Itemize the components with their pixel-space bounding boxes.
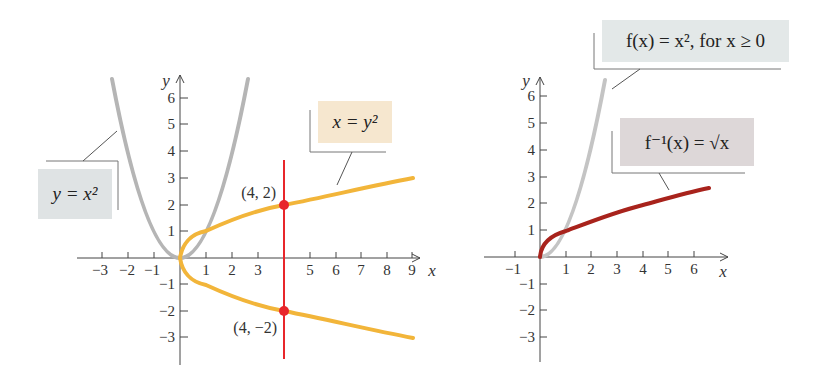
x-axis-label: x xyxy=(427,261,436,280)
right-graph: −1 1 2 3 4 5 6 x 6 5 4 3 2 1 −1 −2 −3 y xyxy=(484,33,781,362)
y-tick-label: −2 xyxy=(519,302,535,318)
callout-finv: f⁻¹(x) = √x xyxy=(620,118,754,166)
x-tick-label: 7 xyxy=(357,262,365,278)
callout-sideways: x = y² xyxy=(318,101,392,143)
x-tick-label: 3 xyxy=(613,261,621,277)
point-lower-label: (4, −2) xyxy=(233,319,277,337)
callout-sideways-text: x = y² xyxy=(333,111,378,133)
callout-parabola-text: y = x² xyxy=(53,183,98,205)
y-tick-label: 4 xyxy=(168,143,176,159)
y-tick-label: 6 xyxy=(528,88,536,104)
y-tick-label: −1 xyxy=(159,276,175,292)
sideways-parabola-upper xyxy=(180,178,413,258)
x-tick-label: −1 xyxy=(505,261,521,277)
y-tick-label: −2 xyxy=(159,303,175,319)
x-axis-label: x xyxy=(718,262,727,281)
x-tick-label: 3 xyxy=(254,262,262,278)
callout-f: f(x) = x², for x ≥ 0 xyxy=(602,20,789,62)
y-axis-label: y xyxy=(160,71,170,90)
y-tick-label: −1 xyxy=(519,276,535,292)
y-tick-label: 2 xyxy=(528,195,536,211)
y-tick-label: 4 xyxy=(528,142,536,158)
x-tick-label: −1 xyxy=(144,262,160,278)
x-tick-label: 6 xyxy=(690,261,698,277)
x-tick-label: −3 xyxy=(92,262,108,278)
y-tick-label: 5 xyxy=(168,116,176,132)
y-tick-label: −3 xyxy=(159,329,175,345)
callout-leader-parabola-pointer xyxy=(83,131,117,161)
sideways-parabola-curve xyxy=(180,178,413,258)
point-lower xyxy=(279,306,289,316)
y-tick-label: 3 xyxy=(528,169,536,185)
y-tick-label: 3 xyxy=(168,170,176,186)
point-upper-label: (4, 2) xyxy=(241,184,276,202)
sideways-parabola-lower xyxy=(180,258,413,338)
x-tick-label: 4 xyxy=(639,261,647,277)
x-tick-label: 2 xyxy=(587,261,595,277)
x-tick-label: 5 xyxy=(306,262,314,278)
callout-leader-finv-pointer xyxy=(659,173,669,190)
x-tick-label: 8 xyxy=(383,262,391,278)
finv-curve xyxy=(540,188,709,257)
callout-leader-sideways-pointer xyxy=(337,152,352,185)
point-upper xyxy=(279,200,289,210)
callout-leader-f-pointer xyxy=(612,69,640,89)
x-tick-label: 5 xyxy=(664,261,672,277)
callout-f-text: f(x) = x², for x ≥ 0 xyxy=(626,30,765,52)
callout-parabola: y = x² xyxy=(38,169,112,219)
y-tick-label: 6 xyxy=(168,90,176,106)
y-tick-label: 2 xyxy=(168,197,176,213)
y-tick-label: 1 xyxy=(168,223,176,239)
x-tick-label: 6 xyxy=(332,262,340,278)
y-tick-label: 1 xyxy=(528,222,536,238)
y-tick-label: 5 xyxy=(528,115,536,131)
x-tick-label: 1 xyxy=(202,262,210,278)
x-ticks xyxy=(102,252,412,258)
y-tick-label: −3 xyxy=(519,329,535,345)
y-ticks xyxy=(180,98,188,337)
y-axis-label: y xyxy=(520,71,530,90)
x-tick-label: 1 xyxy=(562,261,570,277)
x-tick-label: 2 xyxy=(228,262,236,278)
x-tick-label: −2 xyxy=(119,262,135,278)
callout-finv-text: f⁻¹(x) = √x xyxy=(645,131,729,154)
y-ticks xyxy=(540,96,547,337)
x-tick-label: 9 xyxy=(408,262,416,278)
